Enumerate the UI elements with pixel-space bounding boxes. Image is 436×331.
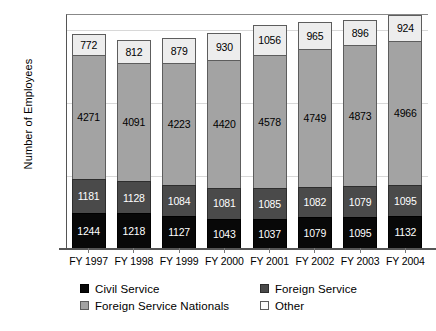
x-axis-tick-label: FY 2003 xyxy=(338,255,383,267)
bar-value-label: 1082 xyxy=(304,197,327,208)
bar-value-label: 924 xyxy=(397,23,414,34)
bar-value-label: 1127 xyxy=(168,227,190,238)
bar-segment: 1037 xyxy=(253,219,287,249)
bar-value-label: 1095 xyxy=(349,228,372,239)
stacked-bar-chart: Number of Employees 0250050007500 772427… xyxy=(0,0,436,331)
bar-value-label: 1128 xyxy=(123,193,145,204)
bar-value-label: 896 xyxy=(352,28,369,39)
legend-swatch-icon xyxy=(260,284,269,293)
x-axis-ticks xyxy=(66,248,428,253)
bar-value-label: 1218 xyxy=(123,226,146,237)
bar-value-label: 965 xyxy=(306,31,323,42)
bar-value-label: 1043 xyxy=(213,229,236,240)
x-axis-tick-label: FY 2004 xyxy=(383,255,428,267)
legend-item-label: Civil Service xyxy=(95,283,160,295)
legend-item[interactable]: Civil Service xyxy=(80,283,260,295)
bar-segment: 4420 xyxy=(207,60,241,189)
bar-column: 896487310791095 xyxy=(343,14,377,248)
legend-item[interactable]: Foreign Service xyxy=(260,283,410,295)
legend-item-label: Foreign Service xyxy=(275,283,357,295)
legend-item[interactable]: Other xyxy=(260,300,410,312)
bar-column: 812409111281218 xyxy=(117,14,151,248)
x-axis-tick-mark xyxy=(224,248,225,253)
bar-value-label: 1132 xyxy=(394,227,416,238)
bar-column: 772427111811244 xyxy=(72,14,106,248)
bar-segment: 1127 xyxy=(162,216,196,249)
bar-value-label: 930 xyxy=(216,42,233,53)
bar-value-label: 1081 xyxy=(213,198,236,209)
bar-segment: 1181 xyxy=(72,179,106,214)
bar-segment: 1056 xyxy=(253,25,287,56)
legend-item[interactable]: Foreign Service Nationals xyxy=(80,300,260,312)
bars-layer: 7724271118112448124091112812188794223108… xyxy=(66,14,428,248)
bar-segment: 879 xyxy=(162,38,196,64)
bar-segment: 1084 xyxy=(162,185,196,217)
bar-segment: 1244 xyxy=(72,213,106,249)
bar-segment: 965 xyxy=(298,22,332,50)
bar-value-label: 1037 xyxy=(258,229,281,240)
bar-value-label: 4966 xyxy=(394,108,417,119)
bar-segment: 4271 xyxy=(72,55,106,180)
x-axis-tick-mark xyxy=(179,248,180,253)
bar-segment: 772 xyxy=(72,34,106,57)
bar-value-label: 812 xyxy=(125,47,142,58)
x-axis-tick-mark xyxy=(314,248,315,253)
legend-item-label: Foreign Service Nationals xyxy=(95,300,229,312)
x-axis-tick-mark xyxy=(88,248,89,253)
x-axis-tick-label: FY 2001 xyxy=(247,255,292,267)
bar-value-label: 4223 xyxy=(168,119,191,130)
bar-value-label: 1079 xyxy=(304,228,327,239)
bar-segment: 4966 xyxy=(388,41,422,186)
bar-column: 1056457810851037 xyxy=(253,14,287,248)
x-axis-tick-mark xyxy=(269,248,270,253)
bar-value-label: 4271 xyxy=(77,112,100,123)
bar-segment: 1079 xyxy=(298,217,332,249)
bar-value-label: 879 xyxy=(171,46,188,57)
bar-value-label: 1056 xyxy=(258,35,281,46)
bar-column: 965474910821079 xyxy=(298,14,332,248)
bar-value-label: 1085 xyxy=(258,199,281,210)
bar-segment: 4091 xyxy=(117,63,151,183)
bar-value-label: 4578 xyxy=(258,117,281,128)
x-axis-tick-label: FY 2000 xyxy=(202,255,247,267)
bar-segment: 812 xyxy=(117,40,151,64)
bar-segment: 896 xyxy=(343,20,377,46)
x-axis-labels: FY 1997FY 1998FY 1999FY 2000FY 2001FY 20… xyxy=(66,255,428,267)
y-axis-title: Number of Employees xyxy=(22,39,34,189)
bar-value-label: 4420 xyxy=(213,119,236,130)
bar-segment: 4749 xyxy=(298,49,332,188)
bar-value-label: 4091 xyxy=(123,117,146,128)
bar-segment: 1218 xyxy=(117,213,151,249)
bar-segment: 1081 xyxy=(207,188,241,220)
bar-segment: 1082 xyxy=(298,187,332,219)
x-axis-tick-mark xyxy=(405,248,406,253)
bar-column: 879422310841127 xyxy=(162,14,196,248)
legend-swatch-icon xyxy=(260,301,269,310)
x-axis-tick-mark xyxy=(133,248,134,253)
bar-value-label: 1079 xyxy=(349,197,372,208)
bar-column: 924496610951132 xyxy=(388,14,422,248)
bar-segment: 4873 xyxy=(343,45,377,188)
bar-segment: 4223 xyxy=(162,63,196,187)
x-axis-tick-label: FY 1999 xyxy=(157,255,202,267)
bar-segment: 930 xyxy=(207,33,241,60)
bar-value-label: 1181 xyxy=(78,191,100,202)
bar-segment: 1132 xyxy=(388,216,422,249)
x-axis-tick-label: FY 2002 xyxy=(292,255,337,267)
bar-segment: 1085 xyxy=(253,188,287,220)
bar-segment: 1079 xyxy=(343,186,377,218)
bar-column: 930442010811043 xyxy=(207,14,241,248)
bar-segment: 1128 xyxy=(117,181,151,214)
bar-segment: 1095 xyxy=(343,217,377,249)
bar-value-label: 4749 xyxy=(304,113,327,124)
bar-segment: 924 xyxy=(388,15,422,42)
bar-value-label: 772 xyxy=(80,40,97,51)
legend-swatch-icon xyxy=(80,301,89,310)
legend-item-label: Other xyxy=(275,300,304,312)
bar-value-label: 1084 xyxy=(168,196,191,207)
bar-segment: 4578 xyxy=(253,55,287,189)
bar-value-label: 4873 xyxy=(349,111,372,122)
x-axis-tick-label: FY 1997 xyxy=(66,255,111,267)
bar-value-label: 1244 xyxy=(77,226,100,237)
bar-segment: 1043 xyxy=(207,219,241,250)
